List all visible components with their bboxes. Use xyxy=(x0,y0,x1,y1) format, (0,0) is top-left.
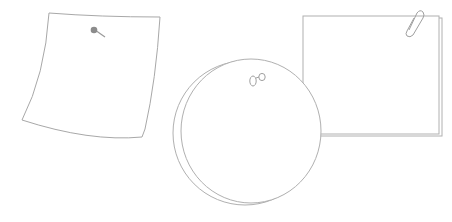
notes-svg xyxy=(0,0,452,222)
curled-note xyxy=(22,13,160,138)
notes-illustration xyxy=(0,0,452,222)
round-note xyxy=(173,59,321,205)
square-note-stack xyxy=(303,16,442,136)
